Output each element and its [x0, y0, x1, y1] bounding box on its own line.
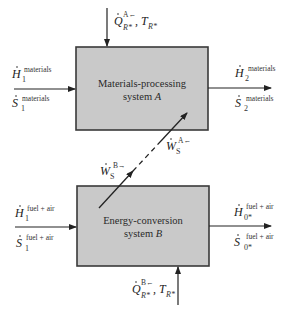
svg-text:S: S [176, 147, 180, 156]
h0-fuel-air-label: H 0* fuel + air [233, 202, 274, 222]
system-b-label-line1: Energy-conversion [103, 215, 183, 226]
heat-a-label: Q A← R* , T R* [114, 10, 157, 32]
svg-text:1: 1 [25, 214, 29, 223]
svg-text:R*: R* [122, 23, 132, 32]
work-a-label: W S A← [166, 136, 191, 156]
svg-text:R*: R* [147, 22, 157, 31]
svg-text:H: H [234, 66, 245, 80]
system-b-box [77, 186, 209, 266]
svg-text:materials: materials [22, 94, 50, 103]
svg-text:materials: materials [248, 64, 276, 73]
svg-text:S: S [234, 235, 240, 249]
svg-text:fuel + air: fuel + air [246, 232, 274, 241]
svg-text:0*: 0* [244, 213, 252, 222]
svg-text:H: H [233, 205, 244, 219]
svg-text:S: S [12, 96, 18, 110]
svg-text:S: S [16, 236, 22, 250]
svg-text:A←: A← [123, 10, 136, 19]
svg-text:2: 2 [244, 104, 248, 113]
svg-text:fuel + air: fuel + air [27, 204, 55, 213]
system-b-label-line2: system B [124, 228, 163, 239]
energy-flow-diagram: Materials-processing system A Energy-con… [0, 0, 286, 311]
svg-text:materials: materials [246, 94, 274, 103]
svg-text:B←: B← [141, 278, 154, 287]
s1-fuel-air-label: S 1 fuel + air [16, 233, 54, 253]
svg-text:R*: R* [140, 291, 150, 300]
svg-text:A←: A← [178, 136, 191, 145]
s1-materials-label: S 1 materials [12, 94, 50, 113]
svg-text:0*: 0* [244, 243, 252, 252]
svg-text:,: , [135, 14, 138, 28]
h2-materials-label: H 2 materials [234, 64, 276, 83]
svg-text:fuel + air: fuel + air [26, 233, 54, 242]
heat-b-label: Q B← R* , T R* [132, 278, 175, 300]
system-a-label-line1: Materials-processing [98, 78, 187, 89]
svg-text:,: , [153, 282, 156, 296]
h1-materials-label: H 1 materials [11, 65, 52, 84]
svg-text:B→: B→ [113, 161, 126, 170]
svg-text:H: H [11, 67, 22, 81]
svg-text:1: 1 [25, 244, 29, 253]
h1-fuel-air-label: H 1 fuel + air [14, 204, 55, 223]
svg-text:fuel + air: fuel + air [246, 202, 274, 211]
svg-text:materials: materials [24, 65, 52, 74]
svg-text:2: 2 [245, 74, 249, 83]
svg-text:1: 1 [22, 75, 26, 84]
work-line-dashed [133, 142, 160, 171]
svg-text:1: 1 [21, 104, 25, 113]
svg-text:H: H [14, 206, 25, 220]
system-a-label-line2: system A [123, 91, 162, 102]
work-b-label: W S B→ [100, 161, 126, 181]
svg-text:Q: Q [114, 14, 123, 28]
svg-text:S: S [235, 96, 241, 110]
svg-text:Q: Q [132, 282, 141, 296]
s0-fuel-air-label: S 0* fuel + air [234, 232, 274, 252]
svg-text:S: S [110, 172, 114, 181]
svg-text:R*: R* [165, 290, 175, 299]
s2-materials-label: S 2 materials [235, 94, 274, 113]
